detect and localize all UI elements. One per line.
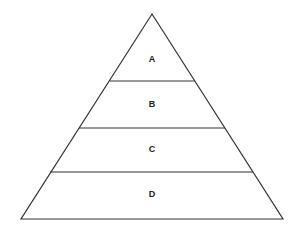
level-label-d: D bbox=[149, 189, 156, 199]
level-label-a: A bbox=[149, 54, 156, 64]
level-label-b: B bbox=[149, 99, 156, 109]
level-label-c: C bbox=[149, 144, 156, 154]
pyramid-outline bbox=[21, 14, 283, 219]
pyramid-diagram: A B C D bbox=[0, 0, 294, 230]
